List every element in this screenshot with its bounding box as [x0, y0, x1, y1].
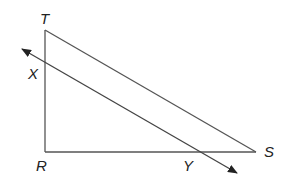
label-x: X [27, 65, 39, 82]
label-r: R [36, 157, 47, 174]
label-y: Y [183, 157, 194, 174]
segment-ts [45, 30, 256, 152]
line-xy [22, 49, 237, 173]
label-t: T [40, 10, 51, 27]
label-s: S [264, 143, 274, 160]
geometry-diagram: T X R Y S [0, 0, 283, 188]
